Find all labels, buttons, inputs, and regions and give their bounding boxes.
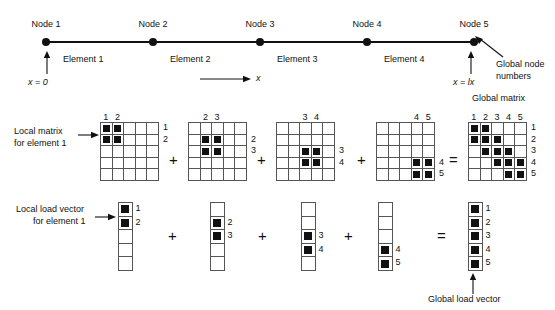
matrix-cell-filled (412, 158, 424, 170)
matrix-cell-empty (515, 146, 527, 158)
matrix-cell-empty (224, 135, 236, 147)
vector-cell-filled (302, 230, 316, 244)
row-spacer (439, 145, 444, 157)
global-matrix-row-header: 3 (531, 145, 536, 157)
vector-cell-empty (379, 217, 393, 231)
vector-cell-empty (119, 244, 133, 258)
matrix-cell-empty (235, 158, 247, 170)
global-load-vector: 12345 (468, 202, 491, 271)
matrix-cell-empty (224, 158, 236, 170)
global-node-numbers-label-2: numbers (496, 71, 531, 82)
matrix-cell-empty (201, 158, 213, 170)
x-axis-label: x (256, 73, 261, 84)
matrix-cell-empty (235, 123, 247, 135)
vector-cell-empty (379, 203, 393, 217)
label-spacer (319, 202, 324, 216)
matrix-cell-empty (400, 158, 412, 170)
row-spacer (339, 168, 344, 180)
element-3-load-vector-label: 4 (319, 243, 324, 257)
matrix-row (277, 146, 335, 158)
mesh-element-label-1: Element 1 (63, 54, 104, 65)
matrix-cell-empty (504, 135, 516, 147)
matrix-row (189, 158, 247, 170)
vector-cell-filled (469, 230, 483, 244)
row-spacer (251, 157, 256, 169)
matrix-cell-filled (469, 135, 481, 147)
vector-plus-operator-1: + (168, 228, 177, 243)
matrix-cell-filled (481, 135, 493, 147)
element-2-matrix-col-header: 2 (200, 112, 212, 122)
row-spacer (439, 122, 444, 134)
col-spacer (135, 112, 147, 122)
matrix-cell-empty (212, 158, 224, 170)
label-spacer (396, 202, 401, 216)
element-4-load-vector: 45 (378, 202, 401, 271)
col-spacer (322, 112, 334, 122)
row-spacer (339, 134, 344, 146)
label-spacer (228, 256, 233, 270)
vector-cell-filled (379, 244, 393, 258)
col-spacer (146, 112, 158, 122)
matrix-cell-empty (377, 146, 389, 158)
matrix-cell-filled (212, 135, 224, 147)
matrix-cell-empty (423, 123, 435, 135)
matrix-cell-empty (412, 135, 424, 147)
matrix-cell-empty (400, 123, 412, 135)
element-4-load-vector-label: 5 (396, 256, 401, 270)
global-matrix-col-header: 5 (514, 112, 526, 122)
matrix-cell-filled (504, 169, 516, 181)
matrix-row (189, 169, 247, 181)
matrix-row (189, 146, 247, 158)
mesh-node-label-2: Node 2 (133, 19, 173, 30)
vector-plus-operator-3: + (344, 228, 353, 243)
matrix-cell-empty (277, 158, 289, 170)
matrix-cell-empty (377, 158, 389, 170)
label-spacer (228, 202, 233, 216)
matrix-cell-filled (212, 146, 224, 158)
mesh-node-label-4: Node 4 (347, 19, 387, 30)
row-spacer (163, 157, 168, 169)
element-4-load-vector-label: 4 (396, 243, 401, 257)
x-zero-arrow-icon (42, 50, 52, 74)
vector-cell-filled (119, 217, 133, 231)
matrix-cell-empty (136, 135, 148, 147)
element-4-matrix-col-header: 5 (422, 112, 434, 122)
matrix-cell-filled (515, 169, 527, 181)
matrix-row (377, 123, 435, 135)
matrix-cell-filled (312, 158, 324, 170)
matrix-cell-empty (124, 158, 136, 170)
matrix-cell-empty (101, 158, 113, 170)
vector-cell-empty (211, 257, 225, 271)
mesh-node-label-5: Node 5 (454, 19, 494, 30)
matrix-cell-empty (323, 169, 335, 181)
matrix-cell-empty (389, 146, 401, 158)
matrix-cell-empty (113, 146, 125, 158)
element-1-matrix-row-header: 2 (163, 134, 168, 146)
mesh-element-label-2: Element 2 (170, 54, 211, 65)
matrix-cell-empty (189, 146, 201, 158)
element-3-matrix-row-header: 4 (339, 157, 344, 169)
element-2-matrix-row-header: 3 (251, 145, 256, 157)
element-2-load-vector-label: 2 (228, 216, 233, 230)
matrix-equals-operator: = (449, 152, 458, 167)
col-spacer (399, 112, 411, 122)
mesh-node-dot-3 (256, 38, 264, 46)
element-3-load-vector: 34 (301, 202, 324, 271)
matrix-cell-empty (289, 123, 301, 135)
matrix-cell-empty (124, 135, 136, 147)
matrix-cell-empty (323, 146, 335, 158)
matrix-cell-filled (300, 146, 312, 158)
matrix-cell-empty (323, 135, 335, 147)
element-4-matrix-column-headers: 45 (376, 112, 444, 122)
matrix-cell-empty (400, 169, 412, 181)
matrix-cell-empty (277, 169, 289, 181)
matrix-cell-filled (101, 123, 113, 135)
matrix-row (277, 135, 335, 147)
vector-cell-filled (469, 257, 483, 271)
global-load-vector-label: 1 (486, 202, 491, 216)
vector-cell-empty (119, 257, 133, 271)
vector-cell-filled (119, 203, 133, 217)
matrix-cell-empty (136, 158, 148, 170)
matrix-cell-empty (101, 169, 113, 181)
element-1-load-vector-label: 2 (136, 216, 141, 230)
